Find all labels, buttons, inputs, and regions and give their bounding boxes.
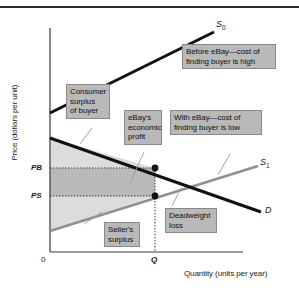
tick-label-pb: PB xyxy=(31,163,42,172)
tick-label-q: Q xyxy=(151,255,157,264)
buyer-price-point xyxy=(152,165,159,172)
curve-label-d: D xyxy=(265,205,272,215)
callout-ebay-economic-profit: eBay's economic profit xyxy=(124,110,162,145)
x-axis-label: Quantity (units per year) xyxy=(184,269,267,278)
callout-consumer-surplus: Consumer surplus of buyer xyxy=(66,84,110,119)
region-ebay-economic-profit xyxy=(50,168,155,196)
curve-label-s0: S0 xyxy=(216,19,226,31)
leader-with-ebay xyxy=(218,154,230,175)
origin-label: 0 xyxy=(41,255,45,264)
figure-canvas: Before eBay—cost of finding buyer is hig… xyxy=(0,0,299,292)
callout-before-ebay: Before eBay—cost of finding buyer is hig… xyxy=(182,44,276,69)
callout-with-ebay: With eBay—cost of finding buyer is low xyxy=(170,110,262,135)
curve-label-s0-subscript: 0 xyxy=(222,24,226,31)
leader-consumer-surplus xyxy=(80,128,92,144)
curve-label-s1-subscript: 1 xyxy=(266,162,270,169)
seller-price-point xyxy=(152,193,159,200)
callout-sellers-surplus: Seller's surplus xyxy=(104,222,140,247)
y-axis-label: Price (dollars per unit) xyxy=(10,63,19,183)
curve-label-s1: S1 xyxy=(260,157,270,169)
tick-label-ps: PS xyxy=(31,191,42,200)
callout-deadweight-loss: Deadweight loss xyxy=(165,208,217,233)
